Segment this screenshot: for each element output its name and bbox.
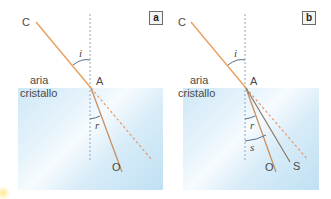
- point-A-label: A: [96, 76, 103, 87]
- point-O-label: O: [265, 162, 274, 173]
- incident-extension: [246, 88, 308, 160]
- incident-extension: [91, 88, 152, 160]
- point-S-label: S: [293, 161, 300, 172]
- point-A-label: A: [250, 76, 257, 87]
- point-C-label: C: [178, 17, 186, 28]
- medium-glass-label: cristallo: [20, 88, 57, 99]
- panel-b: C A O S aria cristallo i r s b: [166, 0, 331, 199]
- angle-i-label: i: [79, 48, 82, 59]
- panel-a: C A O aria cristallo i r a: [0, 0, 166, 199]
- panel-badge-b: b: [302, 11, 316, 25]
- angle-r-label: r: [250, 120, 254, 131]
- panel-badge-a: a: [149, 11, 163, 25]
- angle-i-label: i: [234, 48, 237, 59]
- medium-air-label: aria: [190, 75, 208, 86]
- angle-i-arc: [73, 60, 90, 65]
- angle-i-arc: [228, 60, 245, 65]
- ray-diagram-a: [0, 0, 166, 199]
- medium-air-label: aria: [30, 75, 48, 86]
- medium-glass-label: cristallo: [178, 88, 215, 99]
- ray-diagram-b: [166, 0, 331, 199]
- point-O-label: O: [112, 162, 121, 173]
- point-C-label: C: [22, 17, 30, 28]
- angle-r-label: r: [95, 120, 99, 131]
- angle-s-label: s: [250, 142, 254, 153]
- corner-glow: [0, 186, 10, 199]
